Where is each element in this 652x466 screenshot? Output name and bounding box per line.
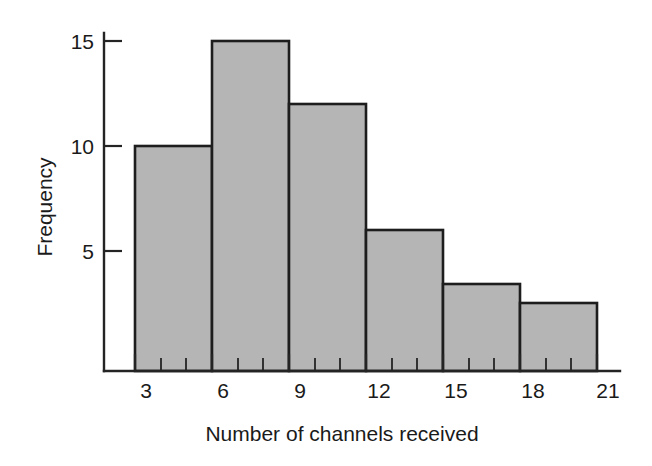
y-axis-title: Frequency — [33, 157, 56, 257]
histogram-plot: 15 10 5 3 6 9 12 15 18 21 Number of chan… — [0, 0, 652, 466]
y-tick-labels: 15 10 5 — [71, 30, 94, 263]
bar-12-15 — [366, 230, 443, 371]
bar-18-21 — [520, 303, 597, 371]
bar-9-12 — [289, 104, 366, 371]
bar-3-6 — [135, 146, 212, 371]
bar-15-18 — [443, 284, 520, 371]
x-tick-label-9: 9 — [294, 379, 306, 402]
x-tick-label-6: 6 — [217, 379, 229, 402]
bars-group — [135, 41, 597, 371]
x-tick-label-15: 15 — [444, 379, 467, 402]
histogram-figure: 15 10 5 3 6 9 12 15 18 21 Number of chan… — [0, 0, 652, 466]
bar-6-9 — [212, 41, 289, 371]
x-tick-label-21: 21 — [596, 379, 619, 402]
x-tick-label-3: 3 — [140, 379, 152, 402]
x-tick-label-18: 18 — [521, 379, 544, 402]
y-axis-ticks — [104, 41, 122, 251]
x-tick-label-12: 12 — [367, 379, 390, 402]
x-tick-labels: 3 6 9 12 15 18 21 — [140, 379, 620, 402]
y-tick-label-15: 15 — [71, 30, 94, 53]
y-tick-label-5: 5 — [82, 240, 94, 263]
x-axis-title: Number of channels received — [205, 422, 478, 445]
y-tick-label-10: 10 — [71, 135, 94, 158]
